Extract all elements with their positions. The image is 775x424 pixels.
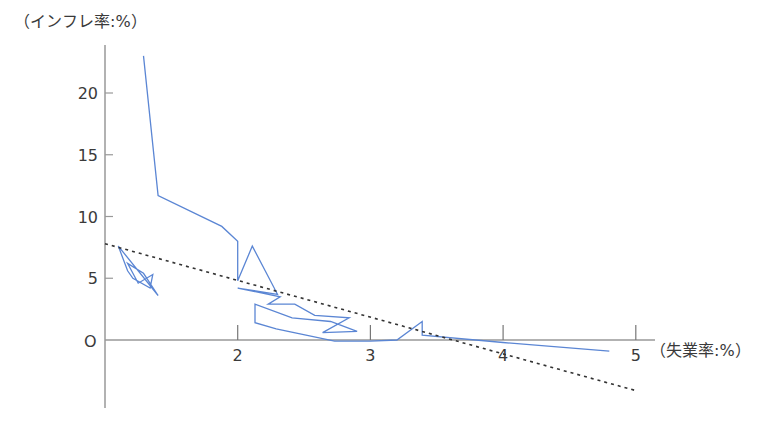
- y-tick-label: 10: [78, 208, 98, 227]
- x-tick-label: 2: [233, 346, 243, 365]
- data-series-line: [118, 246, 158, 295]
- data-series-line: [144, 56, 610, 351]
- x-axis-label: （失業率:%）: [650, 341, 751, 360]
- x-tick-label: 3: [365, 346, 375, 365]
- axes: 5101520 2345: [78, 45, 655, 408]
- phillips-curve-chart: 5101520 2345 （インフレ率:%） （失業率:%） O: [0, 0, 775, 424]
- x-tick-label: 4: [498, 346, 508, 365]
- y-ticks: 5101520: [78, 84, 113, 288]
- y-axis-label: （インフレ率:%）: [14, 12, 147, 31]
- y-tick-label: 15: [78, 146, 98, 165]
- y-tick-label: 20: [78, 84, 98, 103]
- trend-line: [105, 244, 636, 391]
- origin-label: O: [84, 332, 97, 351]
- x-tick-label: 5: [631, 346, 641, 365]
- y-tick-label: 5: [88, 269, 98, 288]
- x-ticks: 2345: [233, 325, 641, 365]
